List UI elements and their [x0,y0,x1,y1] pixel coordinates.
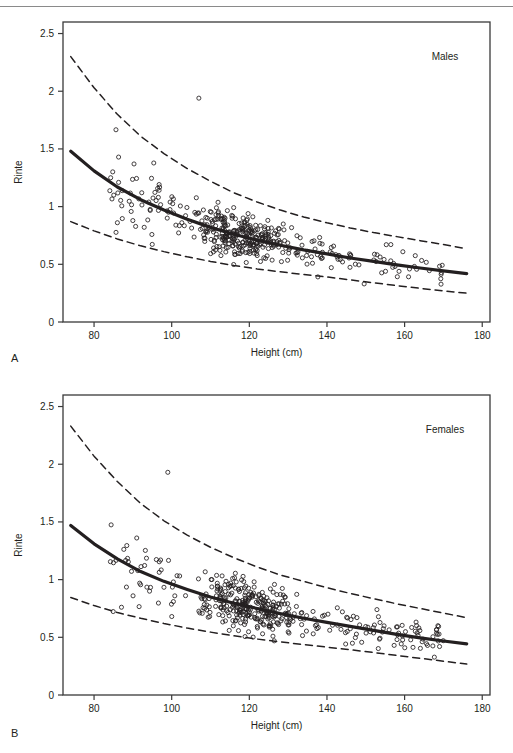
chart-panel-females: 00.511.522.580100120140160180Height (cm)… [0,383,513,753]
x-tick-label: 160 [396,330,413,341]
y-tick-label: 2 [48,86,54,97]
x-tick-label: 180 [474,330,491,341]
plot-frame [63,395,490,695]
x-tick-label: 180 [474,703,491,714]
x-axis-title: Height (cm) [251,720,303,731]
y-tick-label: 0 [48,317,54,328]
y-tick-label: 2.5 [40,401,54,412]
x-tick-label: 140 [319,330,336,341]
x-tick-label: 100 [163,703,180,714]
y-tick-label: 0.5 [40,632,54,643]
x-tick-label: 120 [241,330,258,341]
y-tick-label: 1.5 [40,516,54,527]
y-tick-label: 0.5 [40,259,54,270]
caption-fragment [330,744,513,753]
y-axis-title: Rinte [13,533,24,557]
plot-females: 00.511.522.580100120140160180Height (cm)… [0,383,513,753]
curve-upper-reference-limit [71,57,467,249]
plot-males: 00.511.522.580100120140160180Height (cm)… [0,10,513,380]
y-tick-label: 2 [48,459,54,470]
y-axis-title: Rinte [13,160,24,184]
group-annotation: Males [432,51,459,62]
panel-label-b: B [11,727,19,739]
x-tick-label: 80 [88,703,100,714]
y-tick-label: 0 [48,690,54,701]
x-tick-label: 160 [396,703,413,714]
x-tick-label: 100 [163,330,180,341]
x-tick-label: 140 [319,703,336,714]
chart-panel-males: 00.511.522.580100120140160180Height (cm)… [0,10,513,380]
panel-label-a: A [11,352,19,364]
y-tick-label: 1.5 [40,143,54,154]
x-tick-label: 80 [88,330,100,341]
x-tick-label: 120 [241,703,258,714]
plot-frame [63,22,490,322]
group-annotation: Females [426,424,464,435]
scatter-points [108,96,444,286]
scatter-points [108,470,445,659]
y-tick-label: 1 [48,574,54,585]
x-axis-title: Height (cm) [251,347,303,358]
y-tick-label: 2.5 [40,28,54,39]
y-tick-label: 1 [48,201,54,212]
top-horizontal-rule [0,6,513,7]
